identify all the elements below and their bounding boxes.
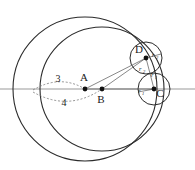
point-dot-D [144,56,149,61]
geometry-canvas: A B C D 3 4 r 2 r 2 r 1 r 1 [0,0,195,170]
point-label-A: A [80,71,88,83]
point-dot-B [100,87,105,92]
point-label-C: C [156,87,163,99]
radius-label-r1-upper-sub: 1 [155,75,157,80]
radius-label-r1-left-sub: 1 [142,91,144,96]
figure-background [0,0,195,170]
geometry-figure: A B C D 3 4 r 2 r 2 r 1 r 1 [0,0,195,170]
point-label-D: D [135,43,143,55]
point-dot-A [83,87,88,92]
measure-label-3: 3 [56,73,61,84]
point-label-B: B [97,93,104,105]
measure-label-4: 4 [62,97,67,108]
